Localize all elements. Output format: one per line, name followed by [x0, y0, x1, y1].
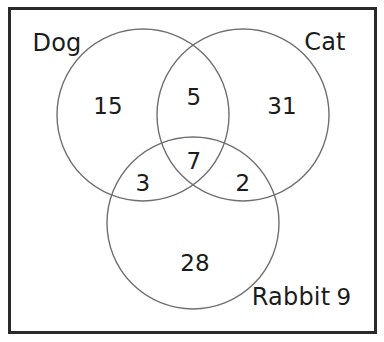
dog-rabbit-count: 3	[136, 172, 151, 195]
dog-only-count: 15	[93, 95, 123, 118]
dog-cat-rabbit-count: 7	[187, 150, 202, 173]
dog-set-label: Dog	[33, 31, 82, 55]
outside-all-count: 9	[337, 286, 352, 309]
cat-set-label: Cat	[304, 30, 345, 54]
dog-cat-count: 5	[187, 86, 202, 109]
rabbit-set-label: Rabbit	[252, 285, 331, 309]
rabbit-only-count: 28	[180, 252, 210, 275]
venn-diagram-figure: Dog Cat Rabbit 9 15 5 31 7 3 2 28	[0, 0, 384, 342]
cat-only-count: 31	[267, 95, 297, 118]
cat-rabbit-count: 2	[236, 172, 251, 195]
